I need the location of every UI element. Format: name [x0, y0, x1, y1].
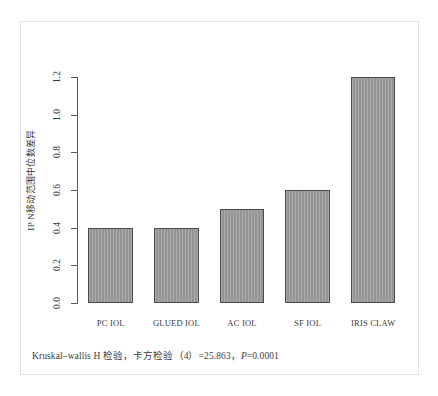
y-axis-tick	[71, 303, 77, 304]
chart-caption: Kruskal–wallis H 检验，卡方检验（4）=25.863，P=0.0…	[32, 348, 279, 362]
y-axis-tick-label: 0.8	[46, 152, 68, 153]
plot-area	[78, 77, 406, 303]
y-axis-tick-label: 0.2	[46, 265, 68, 266]
x-axis-label: SF IOL	[294, 318, 321, 328]
y-axis-tick	[71, 152, 77, 153]
bar	[351, 77, 396, 303]
y-axis-tick	[71, 77, 77, 78]
x-axis-label: IRIS CLAW	[351, 318, 395, 328]
x-axis-label: AC IOL	[227, 318, 256, 328]
y-axis-tick-label: 0.4	[46, 228, 68, 229]
y-axis-tick	[71, 190, 77, 191]
caption-p-value: =0.0001	[247, 351, 279, 361]
y-axis-tick-label: 1.2	[46, 77, 68, 78]
figure-root: IP N移动范围中位数差异 0.00.20.40.60.81.01.2 PC I…	[0, 0, 438, 396]
y-axis-title: IP N移动范围中位数差异	[24, 129, 37, 230]
y-axis-tick	[71, 115, 77, 116]
y-axis-tick-label-text: 0.4	[52, 222, 62, 234]
y-axis-tick-label: 0.0	[46, 303, 68, 304]
y-axis-tick-label: 0.6	[46, 190, 68, 191]
bar	[220, 209, 265, 303]
x-axis-label: GLUED IOL	[153, 318, 200, 328]
bar	[88, 228, 133, 303]
y-axis-tick-label: 1.0	[46, 115, 68, 116]
x-axis-label: PC IOL	[97, 318, 125, 328]
y-axis-tick-label-text: 0.6	[52, 184, 62, 196]
y-axis-tick-label-text: 1.0	[52, 109, 62, 121]
bar	[285, 190, 330, 303]
caption-lead: Kruskal–wallis H 检验，卡方检验（4）=25.863，	[32, 351, 241, 361]
y-axis-tick-label-text: 0.8	[52, 146, 62, 158]
y-axis-tick	[71, 228, 77, 229]
bar	[154, 228, 199, 303]
y-axis-tick-label-text: 0.0	[52, 297, 62, 309]
y-axis-tick-label-text: 0.2	[52, 259, 62, 271]
y-axis-tick	[71, 265, 77, 266]
y-axis-tick-label-text: 1.2	[52, 71, 62, 83]
